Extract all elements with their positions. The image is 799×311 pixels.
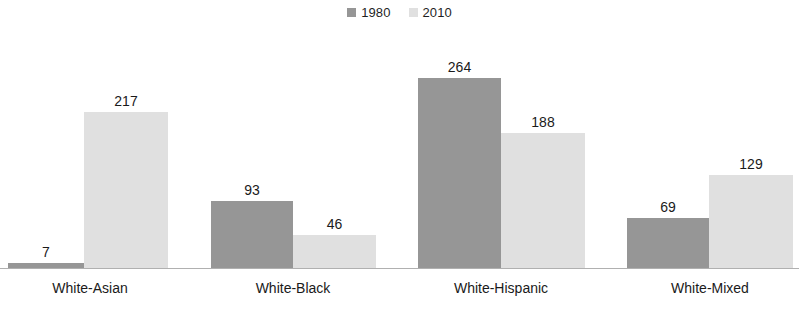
- bar-white-hispanic-1980: [418, 78, 501, 268]
- category-label-white-mixed: White-Mixed: [620, 280, 799, 296]
- x-axis-line: [0, 268, 799, 269]
- bar-value-white-black-1980: 93: [211, 183, 293, 197]
- bar-value-white-hispanic-2010: 188: [501, 115, 585, 129]
- bar-white-black-1980: [211, 201, 293, 268]
- bar-white-mixed-1980: [627, 218, 709, 268]
- bar-value-white-mixed-1980: 69: [627, 200, 709, 214]
- bar-white-asian-1980: [8, 263, 84, 268]
- category-label-white-hispanic: White-Hispanic: [411, 280, 591, 296]
- bar-chart: 1980 2010 7 217 White-Asian 93 46 White-…: [0, 0, 799, 311]
- bar-white-hispanic-2010: [501, 133, 585, 268]
- plot-area: 7 217 White-Asian 93 46 White-Black 264 …: [0, 0, 799, 311]
- category-label-white-asian: White-Asian: [0, 280, 180, 296]
- bar-value-white-asian-1980: 7: [8, 245, 84, 259]
- bar-value-white-black-2010: 46: [293, 217, 376, 231]
- bar-value-white-asian-2010: 217: [84, 94, 168, 108]
- bar-white-asian-2010: [84, 112, 168, 268]
- category-label-white-black: White-Black: [203, 280, 383, 296]
- bar-white-mixed-2010: [709, 175, 793, 268]
- bar-value-white-hispanic-1980: 264: [418, 60, 501, 74]
- bar-value-white-mixed-2010: 129: [709, 157, 793, 171]
- bar-white-black-2010: [293, 235, 376, 268]
